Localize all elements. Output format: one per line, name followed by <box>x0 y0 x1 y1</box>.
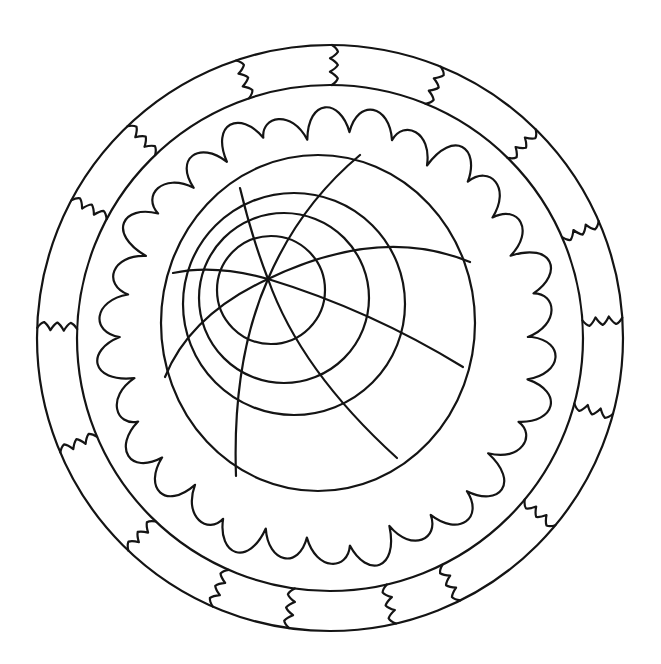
band-divider <box>508 129 537 158</box>
band-divider <box>440 565 460 601</box>
spoke-3 <box>268 247 470 279</box>
band-divider <box>582 317 622 326</box>
band-divider <box>71 198 106 219</box>
scallop-outline <box>97 107 555 565</box>
band-divider <box>426 67 444 104</box>
band-divider <box>330 45 338 85</box>
coloring-page-canvas <box>0 0 661 664</box>
band-divider <box>284 589 295 629</box>
band-divider <box>574 404 613 418</box>
band-divider <box>210 570 229 607</box>
band-divider <box>128 126 156 155</box>
band-divider <box>37 322 77 331</box>
band-divider <box>383 585 396 624</box>
band-divider <box>562 221 599 240</box>
band-divider <box>128 521 156 550</box>
band-divider <box>525 500 556 527</box>
mandala-drawing <box>0 0 661 664</box>
inner-ring <box>77 85 583 591</box>
band-divider <box>60 434 97 453</box>
scalloped-flower-outline <box>97 107 555 565</box>
inner-circle-1 <box>161 155 475 491</box>
spoke-1 <box>240 188 268 279</box>
band-divider <box>236 61 252 99</box>
inner-concentric-circles <box>161 155 475 491</box>
